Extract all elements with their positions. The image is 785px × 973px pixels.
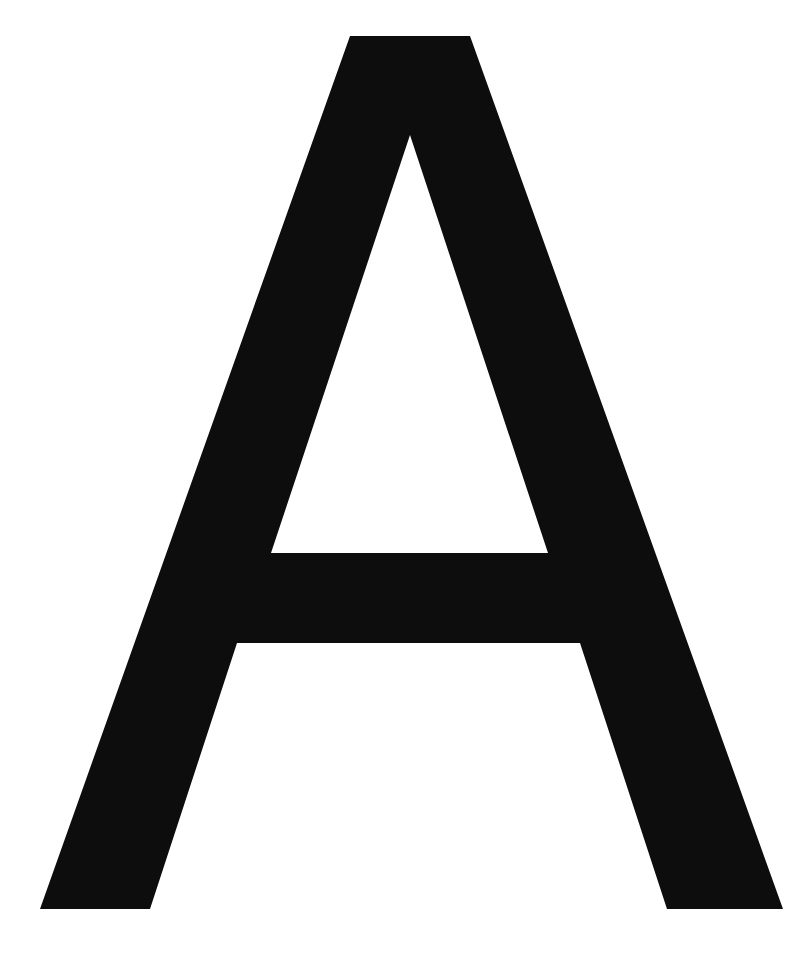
letter-a-shape [40,36,783,909]
canvas: A [0,0,785,973]
letter-a-glyph [0,0,785,973]
